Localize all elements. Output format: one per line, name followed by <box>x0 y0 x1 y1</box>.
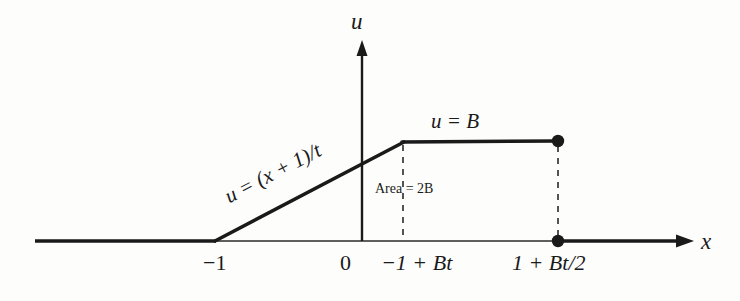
y-axis-label: u <box>351 10 363 33</box>
y-axis-arrowhead <box>357 40 368 56</box>
tick-label-ramp-top: −1 + Bt <box>381 252 452 274</box>
tick-label-shock: 1 + Bt/2 <box>512 252 586 274</box>
plateau-equation-label: u = B <box>431 111 479 132</box>
marker-axis-shock-point <box>552 235 564 247</box>
diagram-canvas <box>0 0 740 301</box>
tick-label-origin: 0 <box>340 252 351 274</box>
math-figure: u x −1 0 −1 + Bt 1 + Bt/2 u = B u = (x +… <box>0 0 740 301</box>
solution-plateau-segment <box>402 141 558 142</box>
marker-plateau-right-endpoint <box>552 135 564 147</box>
x-axis-label: x <box>701 230 711 253</box>
area-annotation-label: Area = 2B <box>375 182 433 196</box>
tick-label-minus-one: −1 <box>203 252 226 274</box>
